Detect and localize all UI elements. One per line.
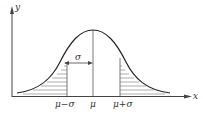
tick-label-mu-plus-sigma: μ+σ (113, 100, 133, 109)
y-axis-arrow-icon (10, 6, 14, 14)
y-axis-label: y (15, 3, 20, 12)
x-axis-arrow-icon (184, 95, 192, 99)
right-tail-hatching (120, 66, 165, 94)
tick-label-mu-minus-sigma: μ−σ (55, 100, 75, 109)
sigma-arrow-left-head-icon (64, 61, 69, 65)
x-axis-label: x (193, 92, 198, 101)
tick-label-mu: μ (90, 100, 96, 109)
bell-curve (17, 30, 170, 93)
normal-distribution-diagram (0, 0, 203, 120)
sigma-arrow-right-head-icon (88, 61, 93, 65)
sigma-label: σ (75, 53, 81, 62)
